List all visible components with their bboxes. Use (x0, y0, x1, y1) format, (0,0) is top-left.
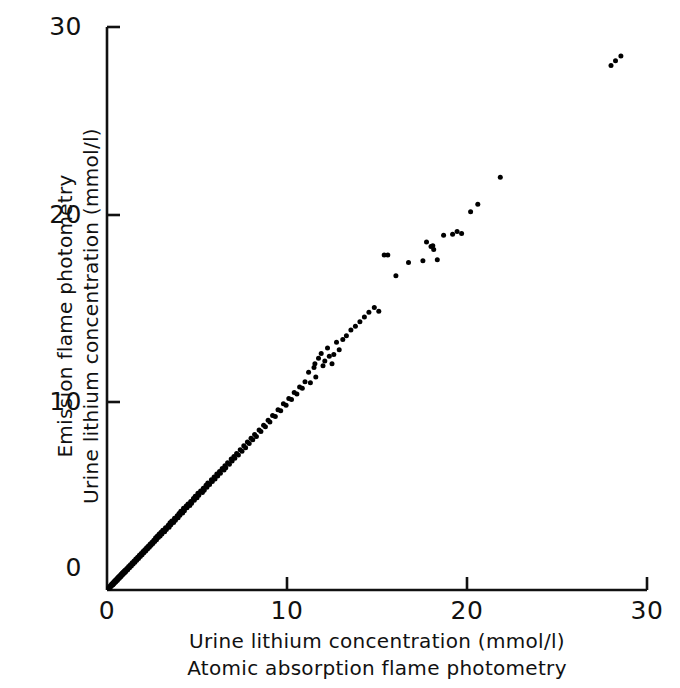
data-point (357, 319, 362, 324)
data-point (321, 363, 326, 368)
data-point (308, 380, 313, 385)
data-point (263, 424, 268, 429)
y-axis-title: Emission flame photometry Urine lithium … (52, 106, 104, 526)
data-point (372, 305, 377, 310)
figure-root: 30 20 10 0 0 10 20 30 Emission flame pho… (0, 0, 680, 688)
x-tick-label-0: 0 (77, 596, 137, 625)
data-point (455, 229, 460, 234)
x-axis-title-line-1: Urine lithium concentration (mmol/l) (107, 628, 647, 655)
data-point (236, 452, 241, 457)
data-point (459, 231, 464, 236)
data-point (278, 408, 283, 413)
data-point (316, 356, 321, 361)
data-point (376, 309, 381, 314)
data-point-group (106, 54, 623, 591)
data-point (319, 351, 324, 356)
data-point (475, 202, 480, 207)
data-point (258, 429, 263, 434)
data-point (300, 386, 305, 391)
y-tick-label-0: 0 (22, 553, 82, 582)
data-point (331, 352, 336, 357)
data-point (441, 233, 446, 238)
data-point (609, 63, 614, 68)
data-point (431, 247, 436, 252)
data-point (325, 345, 330, 350)
data-point (306, 370, 311, 375)
data-point (303, 379, 308, 384)
scatter-plot: 30 20 10 0 0 10 20 30 Emission flame pho… (0, 0, 680, 688)
data-point (337, 347, 342, 352)
data-point (243, 445, 248, 450)
data-point (344, 333, 349, 338)
data-point (322, 359, 327, 364)
data-point (334, 340, 339, 345)
y-tick-label-30: 30 (22, 12, 82, 41)
data-point (267, 420, 272, 425)
data-point (613, 58, 618, 63)
data-point (340, 337, 345, 342)
data-point (424, 239, 429, 244)
data-point (312, 361, 317, 366)
x-axis-title: Urine lithium concentration (mmol/l) Ato… (107, 628, 647, 682)
data-point (289, 397, 294, 402)
data-point (362, 314, 367, 319)
data-point (348, 328, 353, 333)
data-point (406, 260, 411, 265)
x-tick-label-20: 20 (437, 596, 497, 625)
x-tick-label-30: 30 (617, 596, 677, 625)
data-point (366, 310, 371, 315)
data-point (313, 375, 318, 380)
data-point (330, 361, 335, 366)
x-axis-title-line-2: Atomic absorption flame photometry (107, 655, 647, 682)
data-point (353, 324, 358, 329)
data-point (498, 175, 503, 180)
data-point (294, 391, 299, 396)
data-point (420, 258, 425, 263)
data-point (393, 273, 398, 278)
data-point (468, 209, 473, 214)
data-point (450, 232, 455, 237)
x-tick-label-10: 10 (257, 596, 317, 625)
y-axis-title-line-2: Urine lithium concentration (mmol/l) (78, 106, 104, 526)
data-point (247, 441, 252, 446)
data-point (385, 253, 390, 258)
y-axis-title-line-1: Emission flame photometry (52, 106, 78, 526)
data-point (618, 54, 623, 59)
data-point (327, 354, 332, 359)
data-point (284, 403, 289, 408)
data-point (273, 414, 278, 419)
data-point (254, 434, 259, 439)
data-point (435, 257, 440, 262)
